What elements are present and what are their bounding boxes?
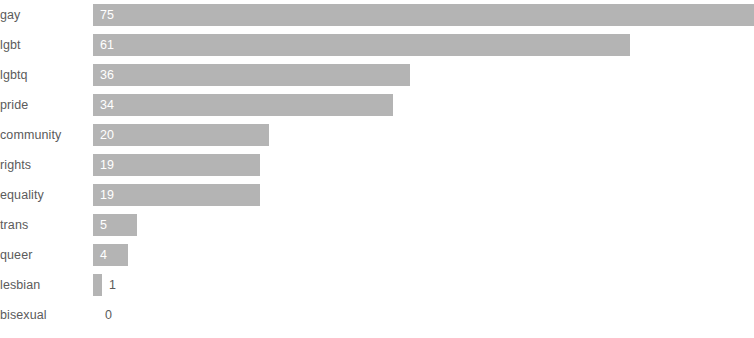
bar-row: lesbian1 bbox=[0, 270, 754, 300]
bar-row: bisexual0 bbox=[0, 300, 754, 330]
bar-track: 5 bbox=[93, 210, 754, 240]
category-label: lgbtq bbox=[0, 60, 84, 90]
bar-track: 1 bbox=[93, 270, 754, 300]
bar-chart: gay75lgbt61lgbtq36pride34community20righ… bbox=[0, 0, 754, 338]
bar-track: 0 bbox=[93, 300, 754, 330]
bar-row: gay75 bbox=[0, 0, 754, 30]
bar-value-label: 19 bbox=[100, 184, 114, 206]
bar bbox=[93, 94, 393, 116]
category-label: lesbian bbox=[0, 270, 84, 300]
bar-value-label: 4 bbox=[100, 244, 107, 266]
bar-value-label: 1 bbox=[109, 274, 116, 296]
bar-row: lgbt61 bbox=[0, 30, 754, 60]
bar-row: queer4 bbox=[0, 240, 754, 270]
category-label: queer bbox=[0, 240, 84, 270]
bar bbox=[93, 64, 410, 86]
bar-value-label: 61 bbox=[100, 34, 114, 56]
category-label: equality bbox=[0, 180, 84, 210]
bar-track: 20 bbox=[93, 120, 754, 150]
category-label: bisexual bbox=[0, 300, 84, 330]
category-label: pride bbox=[0, 90, 84, 120]
category-label: lgbt bbox=[0, 30, 84, 60]
category-label: rights bbox=[0, 150, 84, 180]
bar-row: rights19 bbox=[0, 150, 754, 180]
bar-row: community20 bbox=[0, 120, 754, 150]
bar-row: trans5 bbox=[0, 210, 754, 240]
bar bbox=[93, 34, 630, 56]
bar-track: 36 bbox=[93, 60, 754, 90]
bar-value-label: 20 bbox=[100, 124, 114, 146]
bar-track: 4 bbox=[93, 240, 754, 270]
bar-value-label: 36 bbox=[100, 64, 114, 86]
bar bbox=[93, 4, 754, 26]
bar-row: lgbtq36 bbox=[0, 60, 754, 90]
bar-value-label: 34 bbox=[100, 94, 114, 116]
bar-track: 75 bbox=[93, 0, 754, 30]
bar-value-label: 19 bbox=[100, 154, 114, 176]
bar bbox=[93, 184, 260, 206]
bar bbox=[93, 244, 128, 266]
bar bbox=[93, 124, 269, 146]
bar-value-label: 5 bbox=[100, 214, 107, 236]
bar bbox=[93, 274, 102, 296]
bar-row: equality19 bbox=[0, 180, 754, 210]
bar-value-label: 0 bbox=[105, 304, 112, 326]
category-label: trans bbox=[0, 210, 84, 240]
category-label: gay bbox=[0, 0, 84, 30]
bar-value-label: 75 bbox=[100, 4, 114, 26]
bar-track: 34 bbox=[93, 90, 754, 120]
category-label: community bbox=[0, 120, 84, 150]
bar-track: 61 bbox=[93, 30, 754, 60]
bar-track: 19 bbox=[93, 180, 754, 210]
bar-track: 19 bbox=[93, 150, 754, 180]
bar bbox=[93, 154, 260, 176]
bar-row: pride34 bbox=[0, 90, 754, 120]
